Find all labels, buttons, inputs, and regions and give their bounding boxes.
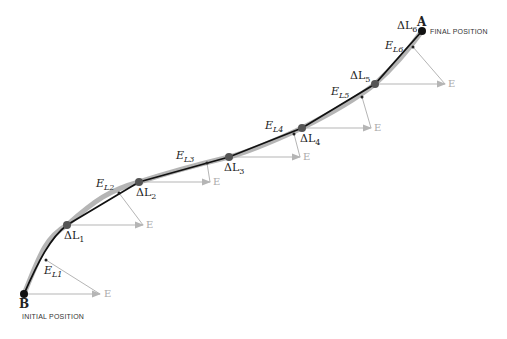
e-l6-label: EL6 — [385, 40, 403, 54]
field-arrows — [24, 84, 445, 294]
delta-l5-label: ΔL5 — [350, 70, 370, 84]
delta-l3-label: ΔL3 — [224, 162, 244, 176]
e-l2-label: EL2 — [96, 178, 114, 192]
point-a-label: A — [417, 16, 426, 28]
path-diagram — [0, 0, 507, 339]
delta-l2-label: ΔL2 — [136, 187, 156, 201]
field-e-label-3: E — [213, 177, 220, 187]
field-e-label-5: E — [374, 123, 381, 133]
point-b-label: B — [19, 298, 29, 310]
final-position-caption: FINAL POSITION — [430, 28, 488, 35]
delta-l4-label: ΔL4 — [300, 133, 320, 147]
field-e-label-4: E — [303, 152, 310, 162]
segment-dots — [20, 27, 426, 298]
field-e-label-2: E — [146, 220, 153, 230]
initial-position-caption: INITIAL POSITION — [22, 313, 84, 320]
delta-l6-label: ΔL6 — [397, 20, 417, 34]
e-l5-label: EL5 — [331, 86, 349, 100]
e-l1-label: EL1 — [44, 265, 62, 279]
field-e-label-1: E — [104, 289, 111, 299]
delta-l1-label: ΔL1 — [64, 230, 84, 244]
e-l4-label: EL4 — [265, 120, 283, 134]
e-l3-label: EL3 — [176, 150, 194, 164]
field-e-label-6: E — [448, 79, 455, 89]
